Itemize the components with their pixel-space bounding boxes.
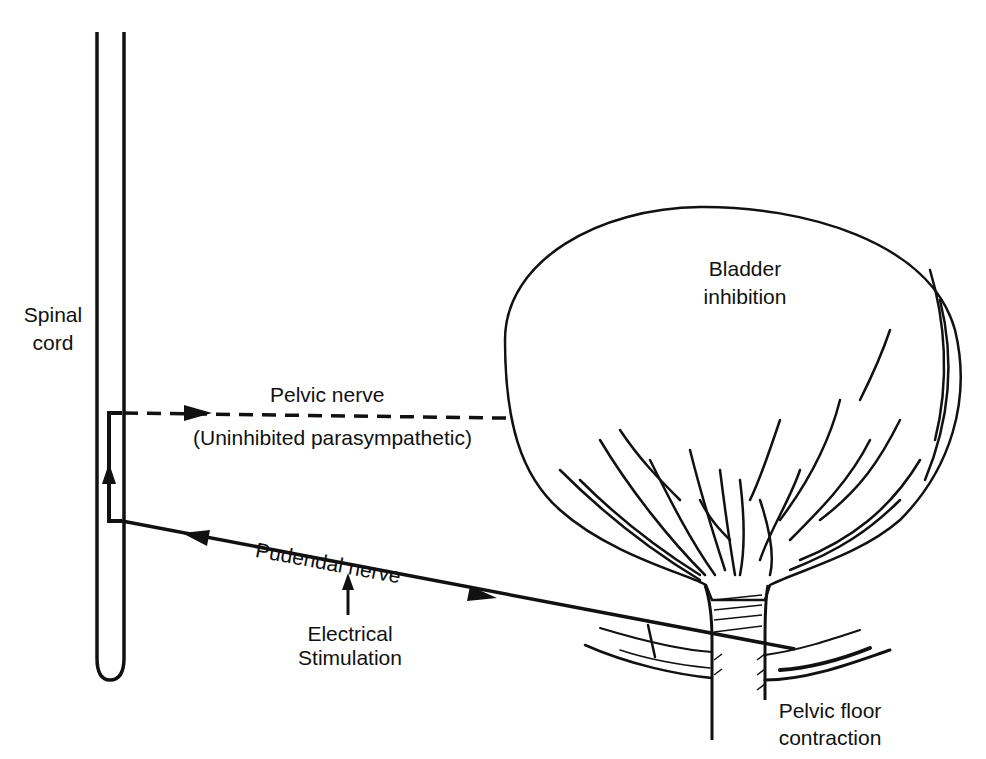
pelvic-floor xyxy=(585,625,890,680)
arrow-up-icon xyxy=(102,463,116,484)
pelvic-floor-contraction-line2: contraction xyxy=(770,724,890,751)
spinal-reflex-loop xyxy=(109,413,122,521)
pelvic-nerve-label: Pelvic nerve xyxy=(270,383,384,407)
pelvic-floor-contraction-line1: Pelvic floor xyxy=(770,697,890,724)
spinal-cord-label-line2: cord xyxy=(18,329,88,357)
arrow-right-icon xyxy=(184,405,212,421)
spinal-cord-label: Spinal cord xyxy=(18,301,88,357)
pelvic-nerve-note: (Uninhibited parasympathetic) xyxy=(193,426,472,450)
pelvic-floor-contraction-label: Pelvic floor contraction xyxy=(770,697,890,751)
diagram-canvas xyxy=(0,0,986,759)
bladder-inhibition-line1: Bladder xyxy=(690,255,800,283)
bladder-inhibition-line2: inhibition xyxy=(690,283,800,311)
electrical-stimulation-line2: Stimulation xyxy=(290,646,410,670)
electrical-stimulation-line1: Electrical xyxy=(290,622,410,646)
spinal-cord-label-line1: Spinal xyxy=(18,301,88,329)
electrical-stimulation-label: Electrical Stimulation xyxy=(290,622,410,670)
bladder-inhibition-label: Bladder inhibition xyxy=(690,255,800,311)
spinal-cord xyxy=(97,32,124,680)
